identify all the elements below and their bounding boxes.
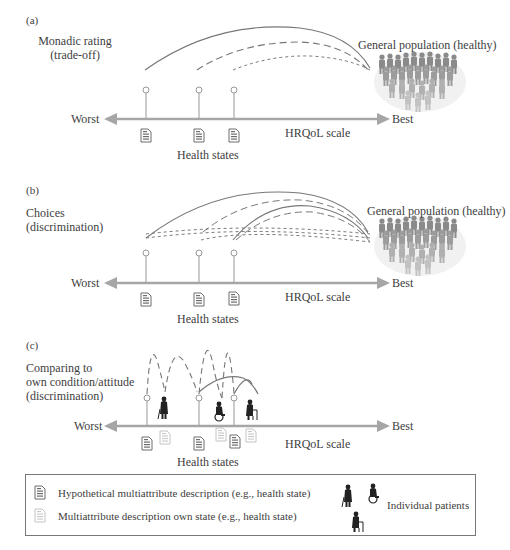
population-label: General population (healthy) xyxy=(367,204,506,218)
method-title-line1: Comparing to xyxy=(26,361,134,375)
health-states-label: Health states xyxy=(177,148,239,162)
axis-left-label: Worst xyxy=(71,112,99,126)
document-dark-icon xyxy=(229,129,239,142)
axis-right-label: Best xyxy=(392,276,413,290)
method-title-line2: own condition/attitude xyxy=(26,375,134,389)
axis-right-label: Best xyxy=(392,419,413,433)
population-label: General population (healthy) xyxy=(358,38,497,52)
method-title-line3: (discrimination) xyxy=(26,389,134,403)
patient-walker-icon xyxy=(246,400,257,420)
axis-arrow-left-icon xyxy=(104,277,117,289)
legend-item-hypothetical: Hypothetical multiattribute description … xyxy=(58,487,310,500)
axis-arrow-left-icon xyxy=(104,113,117,125)
axis-arrow-right-icon xyxy=(377,420,390,432)
document-light-icon xyxy=(216,428,226,441)
dotted-curve xyxy=(233,56,370,70)
crowd-icon xyxy=(374,215,466,276)
axis-scale-label: HRQoL scale xyxy=(285,126,350,140)
panel-c-label: (c) xyxy=(26,338,38,352)
document-light-icon xyxy=(246,429,256,442)
axis-arrow-right-icon xyxy=(377,113,390,125)
panel-a-label: (a) xyxy=(26,13,38,27)
document-dark-icon xyxy=(141,293,151,306)
legend-patients-label: Individual patients xyxy=(387,499,469,512)
method-title-line2: (discrimination) xyxy=(26,220,103,234)
panel-b-method-title: Choices (discrimination) xyxy=(26,206,103,234)
axis-arrow-left-icon xyxy=(104,420,117,432)
panel-b-label: (b) xyxy=(26,183,39,197)
method-title-line1: Choices xyxy=(26,206,103,220)
axis-arrow-right-icon xyxy=(377,277,390,289)
document-light-icon xyxy=(160,431,170,444)
document-dark-icon xyxy=(142,437,152,450)
document-dark-icon xyxy=(194,129,204,142)
document-dark-icon xyxy=(194,437,204,450)
document-dark-icon xyxy=(141,129,151,142)
method-title-line1: Monadic rating xyxy=(20,34,130,48)
axis-right-label: Best xyxy=(392,112,413,126)
patient-cane-icon xyxy=(158,397,168,419)
panel-c-graphics xyxy=(104,350,390,450)
patient-wheelchair-icon xyxy=(215,402,225,421)
crowd-icon xyxy=(374,51,466,112)
dashed-curve xyxy=(197,42,368,70)
axis-scale-label: HRQoL scale xyxy=(285,290,350,304)
panel-a-method-title: Monadic rating (trade-off) xyxy=(20,34,130,62)
axis-left-label: Worst xyxy=(74,419,102,433)
axis-scale-label: HRQoL scale xyxy=(285,437,350,451)
diagram-canvas xyxy=(0,0,510,550)
health-states-label: Health states xyxy=(177,312,239,326)
document-dark-icon xyxy=(230,435,240,448)
axis-left-label: Worst xyxy=(71,276,99,290)
legend-item-own-state: Multiattribute description own state (e.… xyxy=(58,510,297,523)
panel-c-method-title: Comparing to own condition/attitude (dis… xyxy=(26,361,134,403)
document-dark-icon xyxy=(194,293,204,306)
method-title-line2: (trade-off) xyxy=(20,48,130,62)
health-states-label: Health states xyxy=(177,455,239,469)
document-dark-icon xyxy=(229,292,239,305)
